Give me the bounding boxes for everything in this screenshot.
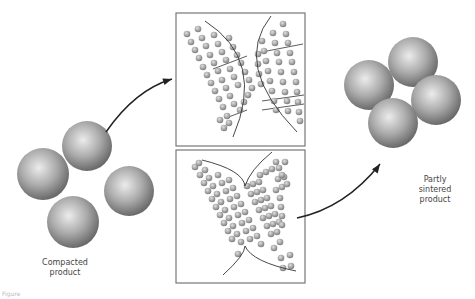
label-line: Compacted xyxy=(30,258,100,268)
atom-particle xyxy=(289,59,296,66)
atom-particle xyxy=(217,117,224,124)
atom-particle xyxy=(230,223,237,230)
atom-particle xyxy=(271,245,278,252)
atom-particle xyxy=(255,51,262,58)
atom-particle xyxy=(282,89,289,96)
arrow-shaft xyxy=(297,164,380,218)
atom-particle xyxy=(204,72,211,79)
atom-particle xyxy=(215,41,222,48)
atom-particle xyxy=(297,118,304,125)
label-line: product xyxy=(30,268,100,278)
atom-particle xyxy=(205,188,212,195)
atom-particle xyxy=(202,167,209,174)
atom-particle xyxy=(221,125,228,132)
atom-particle xyxy=(219,180,226,187)
label-line: Partly xyxy=(405,175,465,185)
atom-particle xyxy=(268,203,275,210)
atom-particle xyxy=(272,40,279,47)
atom-particle xyxy=(287,50,294,57)
atom-particle xyxy=(235,82,242,89)
sphere xyxy=(411,75,461,125)
atom-particle xyxy=(279,222,286,229)
atom-particle xyxy=(234,231,241,238)
label-line: sintered xyxy=(405,185,465,195)
atom-particle xyxy=(223,188,230,195)
atom-particle xyxy=(216,96,223,103)
atom-particle xyxy=(252,199,259,206)
atom-particle xyxy=(238,239,245,246)
atom-particle xyxy=(196,55,203,62)
atom-particle xyxy=(215,172,222,179)
atom-particle xyxy=(206,175,213,182)
atom-particle xyxy=(278,255,285,262)
atom-particle xyxy=(197,172,204,179)
atom-particle xyxy=(295,99,302,106)
atom-particle xyxy=(296,109,303,116)
atom-particle xyxy=(265,68,272,75)
atom-particle xyxy=(192,47,199,54)
atom-particle xyxy=(231,204,238,211)
atom-particle xyxy=(226,177,233,184)
atom-particle xyxy=(195,26,202,33)
arrow-shaft xyxy=(106,79,172,132)
atom-particle xyxy=(288,263,295,270)
atom-particle xyxy=(278,69,285,76)
atom-particle xyxy=(246,217,253,224)
atom-particle xyxy=(227,93,234,100)
sphere xyxy=(17,148,69,200)
atom-particle xyxy=(238,201,245,208)
atom-particle xyxy=(199,35,206,42)
atom-particle xyxy=(257,172,264,179)
atom-particle xyxy=(215,68,222,75)
atom-particle xyxy=(213,204,220,211)
atom-particle xyxy=(219,77,226,84)
atom-particle xyxy=(221,220,228,227)
atom-particle xyxy=(263,58,270,65)
neck-curve xyxy=(256,16,297,132)
atom-particle xyxy=(293,79,300,86)
atom-particle xyxy=(209,196,216,203)
atom-particle xyxy=(287,252,294,259)
atom-particle xyxy=(285,40,292,47)
atom-particle xyxy=(273,187,280,194)
atom-particle xyxy=(225,228,232,235)
atom-particle xyxy=(256,207,263,214)
atom-particle xyxy=(247,236,254,243)
partly-sintered-product-label: Partly sintered product xyxy=(405,175,465,205)
atom-particle xyxy=(214,191,221,198)
atom-particle xyxy=(279,172,286,179)
atom-particle xyxy=(279,213,286,220)
atom-particle xyxy=(211,60,218,67)
atom-particle xyxy=(235,212,242,219)
atom-particle xyxy=(229,236,236,243)
atom-particle xyxy=(266,213,273,220)
compacted-product-label: Compacted product xyxy=(30,258,100,278)
atom-particle xyxy=(274,50,281,57)
atom-particle xyxy=(220,104,227,111)
atom-particle xyxy=(217,212,224,219)
atom-particle xyxy=(203,43,210,50)
atom-particle xyxy=(276,165,283,172)
atom-particle xyxy=(264,223,271,230)
sphere xyxy=(62,121,112,171)
atom-particle xyxy=(250,181,257,188)
neck-curve xyxy=(223,246,296,275)
atom-particle xyxy=(207,52,214,59)
atom-particle xyxy=(226,215,233,222)
atom-particle xyxy=(262,205,269,212)
atom-particle xyxy=(277,195,284,202)
atom-particle xyxy=(263,169,270,176)
atom-particle xyxy=(254,189,261,196)
atom-particle xyxy=(231,101,238,108)
sintering-diagram xyxy=(0,0,475,299)
atom-particle xyxy=(277,239,284,246)
atom-particle xyxy=(285,108,292,115)
atom-particle xyxy=(256,179,263,186)
partly-sintered-product-spheres xyxy=(344,37,461,148)
atom-particle xyxy=(219,49,226,56)
atom-particle xyxy=(250,225,257,232)
atom-particle xyxy=(223,57,230,64)
atom-particle xyxy=(280,21,287,28)
atom-particle xyxy=(184,31,191,38)
sphere xyxy=(368,98,418,148)
